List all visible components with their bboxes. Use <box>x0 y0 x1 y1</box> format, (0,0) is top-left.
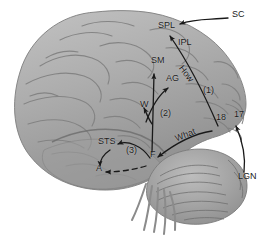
label-pathway-1: (1) <box>203 86 214 95</box>
label-ag: AG <box>166 74 179 83</box>
label-area-18: 18 <box>216 113 226 122</box>
figure-canvas: SPL IPL SC SM AG How (1) W (2) 18 17 Wha… <box>0 0 279 240</box>
label-area-17: 17 <box>234 110 244 119</box>
label-lgn: LGN <box>238 172 257 181</box>
label-pathway-3: (3) <box>126 146 137 155</box>
brain-illustration <box>0 0 279 240</box>
label-a: A <box>96 164 102 173</box>
label-pathway-2: (2) <box>160 109 171 118</box>
label-sc: SC <box>232 10 245 19</box>
label-w: W <box>140 100 149 109</box>
label-f: F <box>150 150 156 159</box>
label-spl: SPL <box>158 21 175 30</box>
label-ipl: IPL <box>178 38 192 47</box>
label-sm: SM <box>151 56 165 65</box>
label-sts: STS <box>98 137 116 146</box>
connector-sc-arrow <box>180 18 228 24</box>
